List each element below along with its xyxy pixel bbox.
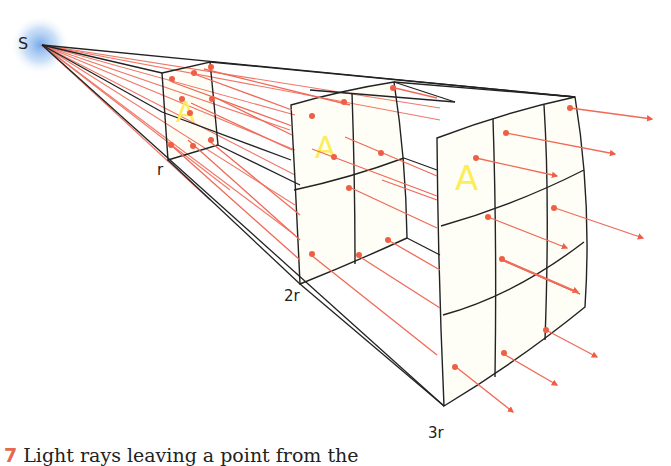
caption-text: Light rays leaving a point from the [23,444,358,466]
svg-text:A: A [455,158,478,198]
distance-label-2r: 2r [284,289,300,304]
distance-label-r: r [157,163,163,178]
distance-label-3r: 3r [428,426,444,441]
source-label: S [18,36,28,52]
caption-number: 7 [4,444,17,466]
figure-caption: 7Light rays leaving a point from the [4,444,359,466]
